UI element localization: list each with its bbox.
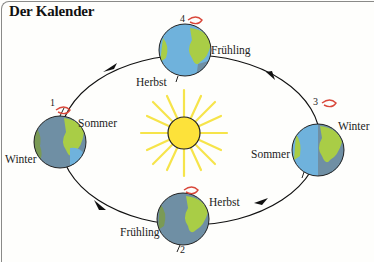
earth-position-2 [157, 187, 209, 252]
label-4-fruehling: Frühling [211, 44, 251, 56]
label-3-winter: Winter [338, 120, 369, 132]
rotation-arrow-icon [188, 17, 202, 24]
label-1-sommer: Sommer [78, 117, 117, 129]
earth-position-3 [292, 100, 344, 178]
rotation-arrow-icon [184, 187, 198, 194]
position-number-1: 1 [50, 97, 55, 108]
label-1-winter: Winter [5, 153, 36, 165]
position-number-2: 2 [180, 244, 185, 255]
earth-position-4 [159, 17, 212, 82]
label-4-herbst: Herbst [136, 76, 167, 88]
sun-icon [141, 90, 227, 176]
label-3-sommer: Sommer [251, 148, 290, 160]
orbit-arrow-icon [254, 198, 268, 205]
label-2-fruehling: Frühling [120, 226, 160, 238]
position-number-4: 4 [180, 13, 185, 24]
rotation-arrow-icon [322, 100, 336, 107]
label-2-herbst: Herbst [209, 196, 240, 208]
position-number-3: 3 [313, 96, 318, 107]
